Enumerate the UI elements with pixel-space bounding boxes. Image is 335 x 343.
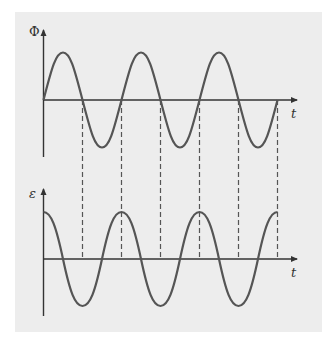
flux-x-label: t: [291, 106, 297, 121]
dashed-guides: [83, 100, 278, 259]
emf-plot: ε t: [29, 186, 297, 316]
flux-emf-diagram: Φ t ε t: [0, 0, 335, 343]
flux-plot: Φ t: [29, 24, 297, 157]
flux-y-label: Φ: [29, 24, 40, 39]
emf-y-label: ε: [29, 186, 36, 201]
emf-x-label: t: [291, 265, 297, 280]
